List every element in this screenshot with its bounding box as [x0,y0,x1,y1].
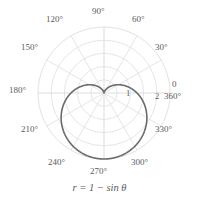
angle-label-330: 330° [155,125,172,134]
polar-plot-figure: 90° 120° 60° 150° 30° 180° 0 360° 210° 3… [0,0,199,213]
angle-label-120: 120° [46,15,63,24]
radial-label-1: 1 [126,89,130,98]
angle-label-360: 360° [164,92,181,101]
angle-label-240: 240° [48,158,65,167]
angle-label-300: 300° [131,158,148,167]
angle-label-150: 150° [21,43,38,52]
angle-label-210: 210° [21,125,38,134]
angle-label-60: 60° [132,15,145,24]
angle-label-90: 90° [92,7,105,16]
angle-label-0: 0 [172,80,177,89]
angle-label-270: 270° [90,167,107,176]
angle-label-180: 180° [9,86,26,95]
equation-caption: r = 1 − sin θ [0,183,199,194]
angle-label-30: 30° [155,43,168,52]
radial-label-2: 2 [155,92,159,101]
